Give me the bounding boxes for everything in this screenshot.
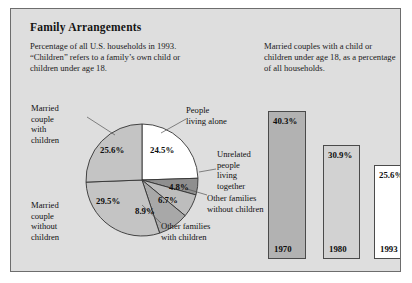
pie-pct-married-with: 25.6% — [100, 145, 124, 155]
pie-pct-other-without: 6.7% — [158, 195, 178, 205]
bar-1993: 25.6% 1993 — [374, 165, 401, 259]
bar-value-1993: 25.6% — [379, 170, 401, 180]
bar-value-1970: 40.3% — [273, 116, 297, 126]
pie-pct-unrelated: 4.8% — [169, 182, 189, 192]
pie-label-married-without: Married couple without children — [31, 200, 93, 242]
pie-pct-married-without: 29.5% — [96, 196, 120, 206]
pie-pct-other-with: 8.9% — [135, 206, 155, 216]
pie-label-living-alone: People living alone — [186, 105, 266, 126]
pie-pct-living-alone: 24.5% — [150, 145, 174, 155]
bar-year-1993: 1993 — [380, 244, 398, 254]
pie-label-other-with: Other families with children — [161, 221, 256, 242]
bar-year-1980: 1980 — [329, 244, 347, 254]
bar-year-1970: 1970 — [274, 244, 292, 254]
bar-1980: 30.9% 1980 — [323, 145, 360, 259]
bar-1970: 40.3% 1970 — [268, 111, 306, 259]
pie-slices — [86, 124, 198, 236]
pie-label-married-with: Married couple with children — [31, 103, 91, 145]
bar-value-1980: 30.9% — [328, 150, 352, 160]
figure-panel: Family Arrangements Percentage of all U.… — [10, 8, 401, 272]
